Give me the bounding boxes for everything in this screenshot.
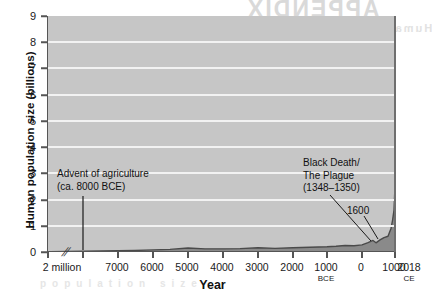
x-tick-mark-0: [47, 252, 49, 258]
gridline-6: [48, 94, 396, 96]
x-tick-mark-2: [117, 252, 119, 258]
x-tick-mark-5: [222, 252, 224, 258]
population-area-series: [48, 16, 396, 252]
annotation-1600: 1600: [347, 205, 369, 218]
x-tick-label-2: 6000: [140, 261, 163, 273]
gridline-7: [48, 67, 396, 69]
annotation-black-death: Black Death/ The Plague (1348–1350): [303, 157, 360, 195]
x-tick-mark-10: [394, 252, 396, 258]
x-tick-label-1: 7000: [105, 261, 128, 273]
x-tick-label-0: 2 million: [43, 261, 82, 273]
gridline-1: [48, 225, 396, 227]
plot-area: [47, 16, 396, 252]
x-tick-mark-3: [152, 252, 154, 258]
y-axis: 9 8 7 6 5 4 3 2 1 0: [0, 0, 44, 300]
gridline-8: [48, 41, 396, 43]
gridline-2: [48, 199, 396, 201]
x-tick-label-3: 5000: [175, 261, 198, 273]
annotation-advent-of-agriculture: Advent of agriculture (ca. 8000 BCE): [57, 168, 149, 193]
x-tick-mark-1: [82, 252, 84, 258]
gridline-5: [48, 120, 396, 122]
y-tick-label-0: 0: [30, 246, 36, 258]
x-tick-label-4: 4000: [210, 261, 233, 273]
x-tick-mark-4: [187, 252, 189, 258]
y-axis-title: Human population size (billions): [24, 35, 36, 245]
x-tick-label-5: 3000: [245, 261, 268, 273]
gridline-4: [48, 146, 396, 148]
x-tick-mark-8: [326, 252, 328, 258]
x-tick-label-7: 1000: [314, 261, 337, 273]
x-tick-label-10: 2018: [397, 261, 420, 273]
x-tick-mark-9: [361, 252, 363, 258]
x-axis-title: Year: [0, 278, 425, 292]
plot-right-border: [394, 16, 396, 252]
x-tick-mark-7: [292, 252, 294, 258]
x-tick-mark-6: [257, 252, 259, 258]
x-tick-label-6: 2000: [280, 261, 303, 273]
x-tick-label-8: 0: [358, 261, 364, 273]
y-tick-label-9: 9: [30, 10, 36, 22]
